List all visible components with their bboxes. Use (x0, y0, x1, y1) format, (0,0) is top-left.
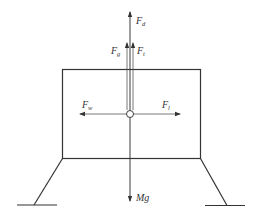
label-fg: Fg (110, 45, 121, 57)
left-leg (34, 159, 63, 206)
label-fl: Fl (161, 99, 170, 111)
label-fd: Fd (135, 15, 146, 27)
label-ft: Ft (136, 45, 145, 57)
right-leg (201, 159, 228, 206)
label-fw: Fw (81, 99, 93, 111)
center-of-mass-circle (127, 111, 134, 118)
free-body-diagram: Fd Fg Ft Fw Fl Mg (0, 0, 257, 219)
label-mg: Mg (135, 192, 149, 203)
